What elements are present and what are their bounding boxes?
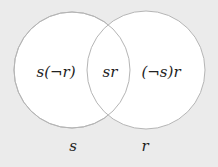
region-s-only-label: s(¬r) <box>36 63 75 81</box>
venn-diagram <box>0 0 218 167</box>
set-r-label: r <box>141 137 148 155</box>
set-s-label: s <box>69 137 77 155</box>
region-both-label: sr <box>103 63 118 81</box>
region-r-only-label: (¬s)r <box>141 63 180 81</box>
